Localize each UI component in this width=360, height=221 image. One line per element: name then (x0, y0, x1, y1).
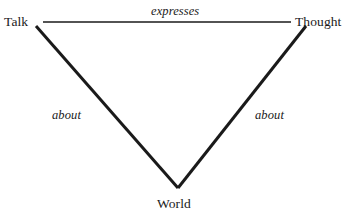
edge-label-about-talk-world: about (52, 108, 81, 123)
edge-line-thought-world (178, 26, 306, 188)
node-label-thought: Thought (295, 14, 341, 30)
node-label-world: World (157, 196, 191, 212)
edge-label-expresses: expresses (151, 4, 199, 19)
edge-line-talk-world (36, 26, 178, 188)
edge-label-about-thought-world: about (255, 108, 284, 123)
diagram-canvas: Talk Thought World expresses about about (0, 0, 360, 221)
node-label-talk: Talk (4, 14, 28, 30)
